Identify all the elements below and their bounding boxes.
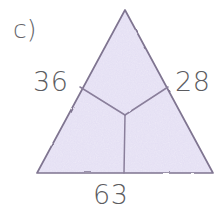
panel-letter-label: c) — [13, 17, 37, 42]
value-label-bottom: 63 — [93, 181, 128, 208]
value-label-right: 28 — [175, 68, 210, 95]
value-label-left: 36 — [33, 68, 68, 95]
figure-container: c) 36 28 63 — [0, 0, 224, 213]
